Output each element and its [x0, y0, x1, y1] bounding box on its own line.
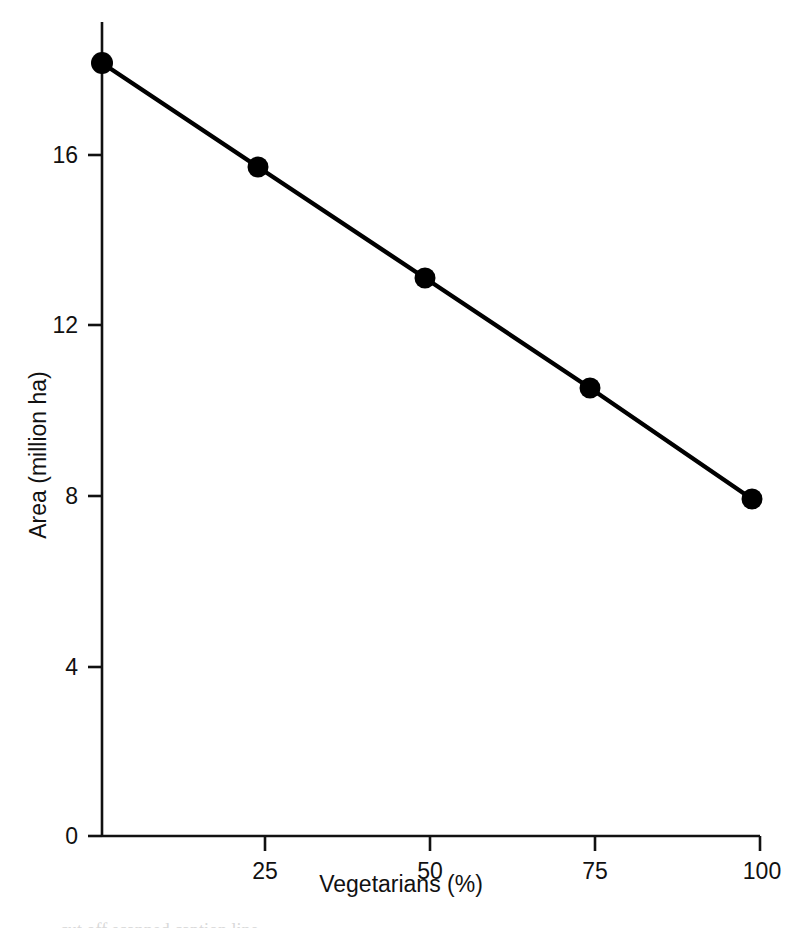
data-point-0: [91, 52, 113, 74]
x-tick-label-75: 75: [582, 858, 608, 885]
y-tick-label-12: 12: [34, 312, 78, 339]
x-axis-ticks: [265, 836, 760, 851]
y-axis-ticks: [88, 155, 102, 836]
data-point-25: [248, 157, 269, 178]
y-tick-label-16: 16: [34, 142, 78, 169]
y-tick-label-0: 0: [34, 823, 78, 850]
y-tick-label-4: 4: [34, 654, 78, 681]
x-tick-label-100: 100: [743, 858, 781, 885]
plot-area: [0, 0, 802, 930]
caption-remnant: cut off scanned caption line: [60, 921, 782, 928]
chart-figure: 16 12 8 4 0 25 50 75 100 Vegetarians (%)…: [0, 0, 802, 930]
data-point-75: [580, 378, 601, 399]
x-axis-title: Vegetarians (%): [319, 871, 483, 898]
data-point-100: [742, 489, 763, 510]
x-tick-label-25: 25: [252, 858, 278, 885]
y-axis-title: Area (million ha): [25, 371, 52, 538]
data-point-50: [415, 268, 436, 289]
